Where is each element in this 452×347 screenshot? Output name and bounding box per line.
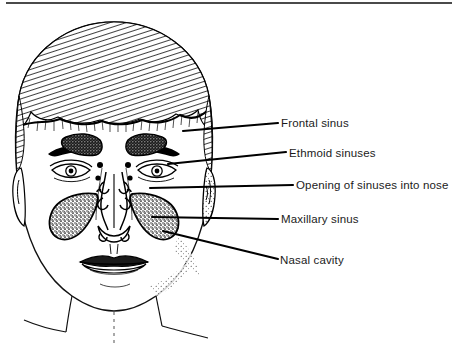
- callout-label-maxillary-sinus: Maxillary sinus: [281, 214, 359, 226]
- callout-label-opening-of-sinuses-into-nose: Opening of sinuses into nose: [296, 180, 449, 192]
- shoulder-right: [162, 326, 208, 338]
- right-eye-pupil: [155, 169, 160, 174]
- head-illustration: [0, 0, 452, 347]
- shoulder-left: [24, 320, 66, 332]
- hair-mass: [17, 22, 212, 130]
- left-ear: [13, 168, 25, 226]
- neck-left: [66, 296, 72, 332]
- callout-label-nasal-cavity: Nasal cavity: [280, 255, 344, 267]
- sinus-diagram-figure: Frontal sinus Ethmoid sinuses Opening of…: [0, 0, 452, 347]
- ethmoid-sinus-right-upper: [125, 162, 131, 168]
- neck-right: [156, 296, 162, 326]
- callout-label-frontal-sinus: Frontal sinus: [281, 118, 349, 130]
- callout-label-ethmoid-sinuses: Ethmoid sinuses: [289, 148, 376, 160]
- ethmoid-sinus-left-upper: [97, 162, 103, 168]
- left-eye-pupil: [69, 169, 74, 174]
